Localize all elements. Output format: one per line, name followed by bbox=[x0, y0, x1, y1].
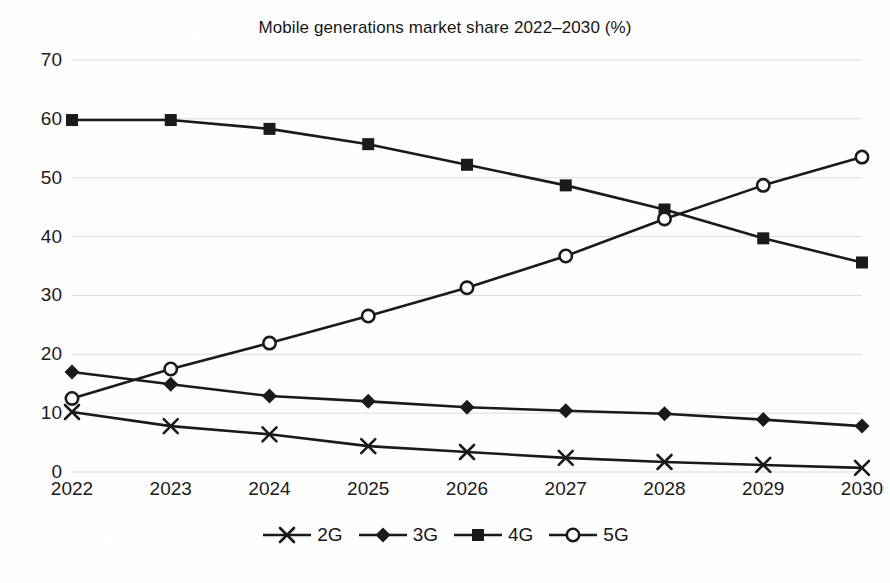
legend-label: 5G bbox=[603, 524, 628, 546]
legend-marker-square-filled bbox=[452, 526, 504, 544]
series-line bbox=[72, 412, 862, 468]
data-point-circle-open bbox=[757, 179, 769, 191]
data-point-diamond-filled bbox=[855, 419, 870, 434]
legend-marker-circle-open bbox=[547, 526, 599, 544]
x-tick-label: 2023 bbox=[150, 478, 192, 500]
data-point-circle-open bbox=[362, 310, 374, 322]
data-point-circle-open bbox=[66, 392, 78, 404]
series-layer bbox=[72, 60, 862, 472]
data-point-diamond-filled bbox=[65, 364, 80, 379]
x-tick-label: 2027 bbox=[545, 478, 587, 500]
chart-legend: 2G3G4G5G bbox=[0, 524, 890, 546]
x-axis: 202220232024202520262027202820292030 bbox=[72, 478, 862, 508]
data-point-square-filled bbox=[362, 138, 374, 150]
data-point-diamond-filled bbox=[163, 377, 178, 392]
data-point-square-filled bbox=[856, 256, 868, 268]
x-tick-label: 2028 bbox=[643, 478, 685, 500]
data-point-square-filled bbox=[560, 179, 572, 191]
plot-area bbox=[72, 60, 862, 472]
legend-label: 4G bbox=[508, 524, 533, 546]
data-point-circle-open bbox=[560, 250, 572, 262]
line-chart: Mobile generations market share 2022–203… bbox=[0, 0, 890, 583]
x-tick-label: 2022 bbox=[51, 478, 93, 500]
series-line bbox=[72, 372, 862, 426]
legend-marker-diamond-filled bbox=[357, 526, 409, 544]
series-line bbox=[72, 157, 862, 398]
chart-title: Mobile generations market share 2022–203… bbox=[0, 18, 890, 38]
y-tick-label: 30 bbox=[16, 284, 62, 306]
data-point-circle-open bbox=[165, 363, 177, 375]
data-point-diamond-filled bbox=[262, 389, 277, 404]
data-point-square-filled bbox=[461, 159, 473, 171]
y-tick-label: 40 bbox=[16, 226, 62, 248]
x-tick-label: 2025 bbox=[347, 478, 389, 500]
data-point-diamond-filled bbox=[361, 394, 376, 409]
data-point-circle-open bbox=[567, 529, 579, 541]
legend-entry-2g[interactable]: 2G bbox=[261, 524, 342, 546]
data-point-square-filled bbox=[264, 123, 276, 135]
y-tick-label: 70 bbox=[16, 49, 62, 71]
series-3g bbox=[65, 364, 870, 433]
legend-entry-4g[interactable]: 4G bbox=[452, 524, 533, 546]
y-tick-label: 60 bbox=[16, 108, 62, 130]
y-tick-label: 10 bbox=[16, 402, 62, 424]
legend-marker-x-cross bbox=[261, 526, 313, 544]
data-point-square-filled bbox=[757, 232, 769, 244]
x-tick-label: 2029 bbox=[742, 478, 784, 500]
legend-label: 3G bbox=[413, 524, 438, 546]
y-tick-label: 20 bbox=[16, 343, 62, 365]
x-tick-label: 2024 bbox=[248, 478, 290, 500]
data-point-circle-open bbox=[263, 337, 275, 349]
x-tick-label: 2030 bbox=[841, 478, 883, 500]
data-point-square-filled bbox=[66, 114, 78, 126]
legend-label: 2G bbox=[317, 524, 342, 546]
data-point-circle-open bbox=[461, 282, 473, 294]
data-point-square-filled bbox=[472, 529, 484, 541]
data-point-circle-open bbox=[658, 213, 670, 225]
x-tick-label: 2026 bbox=[446, 478, 488, 500]
legend-entry-5g[interactable]: 5G bbox=[547, 524, 628, 546]
data-point-diamond-filled bbox=[375, 528, 390, 543]
data-point-square-filled bbox=[165, 114, 177, 126]
data-point-diamond-filled bbox=[657, 406, 672, 421]
series-5g bbox=[66, 151, 868, 405]
series-2g bbox=[65, 405, 869, 475]
data-point-diamond-filled bbox=[756, 412, 771, 427]
data-point-diamond-filled bbox=[460, 400, 475, 415]
y-axis: 706050403020100 bbox=[10, 60, 62, 472]
y-tick-label: 50 bbox=[16, 167, 62, 189]
legend-entry-3g[interactable]: 3G bbox=[357, 524, 438, 546]
data-point-circle-open bbox=[856, 151, 868, 163]
data-point-diamond-filled bbox=[558, 403, 573, 418]
